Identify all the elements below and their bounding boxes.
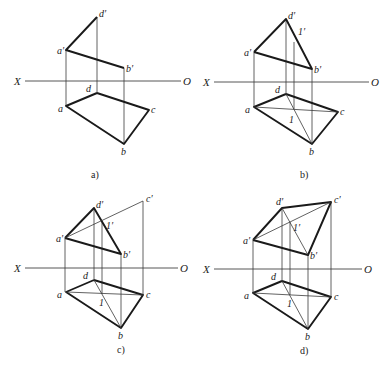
caption-b: b): [300, 169, 308, 181]
label-c-prime: c′: [334, 194, 341, 205]
label-b: b: [309, 146, 314, 157]
label-a-prime: a′: [244, 47, 252, 58]
label-1: 1: [99, 297, 104, 308]
axis-label-o: O: [183, 75, 191, 87]
label-d: d: [275, 84, 281, 95]
caption-d: d): [300, 345, 308, 357]
caption-c: c): [117, 344, 125, 356]
label-a: a: [244, 290, 249, 301]
front-view-edges: [66, 17, 124, 68]
label-a: a: [57, 289, 62, 300]
label-a: a: [58, 103, 63, 114]
label-b-prime: b′: [123, 249, 131, 260]
front-line-ac: [65, 201, 143, 238]
label-a-prime: a′: [57, 45, 65, 56]
panel-a: X O d′ a′ b′ d a c b a): [13, 8, 191, 181]
panel-b: X O d′ 1′ a′ b′ d a c 1 b b): [202, 10, 379, 181]
front-view-edges: [253, 202, 331, 255]
label-d: d: [271, 271, 277, 282]
panel-c: X O d′ c′ 1′ a′ b′ d a c 1 b c): [13, 193, 188, 356]
label-c-prime: c′: [146, 193, 153, 204]
label-c: c: [334, 291, 339, 302]
label-c: c: [151, 104, 156, 115]
projection-diagram: X O d′ a′ b′ d a c b a) X O d′: [0, 0, 386, 371]
axis-label-x: X: [202, 263, 211, 275]
label-d: d: [83, 270, 89, 281]
label-1-prime: 1′: [106, 220, 114, 231]
axis-label-x: X: [13, 75, 22, 87]
label-d-prime: d′: [288, 10, 296, 21]
label-d-prime: d′: [99, 8, 107, 19]
label-a-prime: a′: [56, 233, 64, 244]
label-b: b: [118, 330, 123, 341]
label-b-prime: b′: [310, 250, 318, 261]
label-1: 1: [289, 114, 294, 125]
axis-label-o: O: [180, 262, 188, 274]
top-view-edges: [253, 281, 331, 329]
label-a-prime: a′: [243, 235, 251, 246]
label-1-prime: 1′: [298, 26, 306, 37]
label-d: d: [86, 83, 92, 94]
axis-label-o: O: [364, 263, 372, 275]
label-b: b: [121, 146, 126, 157]
label-c: c: [340, 106, 345, 117]
label-1-prime: 1′: [293, 222, 301, 233]
label-c: c: [146, 289, 151, 300]
top-view-edges: [66, 93, 149, 144]
label-d-prime: d′: [96, 199, 104, 210]
top-view-edges: [254, 94, 338, 144]
front-view-edges: [65, 208, 121, 254]
label-a: a: [245, 104, 250, 115]
top-view-edges: [66, 280, 143, 328]
caption-a: a): [91, 169, 99, 181]
axis-label-x: X: [13, 262, 22, 274]
label-b: b: [305, 331, 310, 342]
label-1: 1: [287, 298, 292, 309]
label-d-prime: d′: [276, 196, 284, 207]
panel-d: X O d′ c′ 1′ a′ b′ d a c 1 b d): [202, 194, 372, 357]
label-b-prime: b′: [126, 63, 134, 74]
label-b-prime: b′: [314, 64, 322, 75]
axis-label-x: X: [202, 76, 211, 88]
axis-label-o: O: [371, 76, 379, 88]
